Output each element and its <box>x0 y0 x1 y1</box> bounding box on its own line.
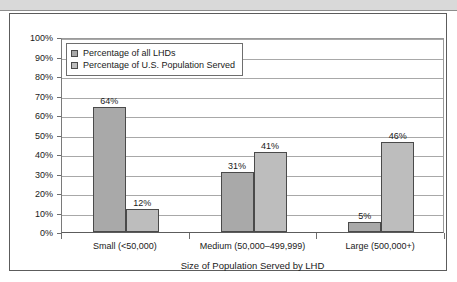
gridline <box>62 98 443 99</box>
legend-label: Percentage of U.S. Population Served <box>83 60 235 70</box>
chart-outer-frame: 0%10%20%30%40%50%60%70%80%90%100% 64%12%… <box>9 13 447 271</box>
y-axis-tick-label: 20% <box>17 189 53 199</box>
legend-item: Percentage of all LHDs <box>71 47 235 59</box>
y-axis-tick-label: 30% <box>17 170 53 180</box>
legend-label: Percentage of all LHDs <box>83 48 176 58</box>
bar <box>348 222 381 232</box>
y-axis-tick-label: 10% <box>17 209 53 219</box>
x-axis-category-label: Medium (50,000–499,999) <box>200 241 306 251</box>
gridline <box>62 78 443 79</box>
legend-swatch-icon <box>71 50 78 57</box>
bar-value-label: 46% <box>389 131 407 141</box>
bar <box>93 107 126 232</box>
bar <box>254 152 287 232</box>
x-axis-tick-mark <box>316 233 317 239</box>
y-axis-tick-label: 60% <box>17 111 53 121</box>
bar-value-label: 31% <box>228 161 246 171</box>
x-axis-tick-mark <box>444 233 445 239</box>
y-axis-tick-label: 90% <box>17 53 53 63</box>
y-axis-tick-label: 70% <box>17 92 53 102</box>
gridline <box>62 39 443 40</box>
chart-legend: Percentage of all LHDs Percentage of U.S… <box>66 43 243 76</box>
bar <box>381 142 414 232</box>
bar-value-label: 41% <box>261 141 279 151</box>
x-axis-tick-mark <box>189 233 190 239</box>
bar-value-label: 64% <box>100 96 118 106</box>
legend-swatch-icon <box>71 62 78 69</box>
bar-value-label: 12% <box>133 198 151 208</box>
x-axis-title: Size of Population Served by LHD <box>61 260 444 271</box>
x-axis-category-label: Small (<50,000) <box>93 241 157 251</box>
chart-figure: 0%10%20%30%40%50%60%70%80%90%100% 64%12%… <box>0 0 457 282</box>
y-axis-tick-label: 50% <box>17 131 53 141</box>
legend-item: Percentage of U.S. Population Served <box>71 59 235 71</box>
x-axis-tick-mark <box>61 233 62 239</box>
cut-off-caption-strip <box>0 0 457 11</box>
y-axis-tick-label: 100% <box>17 33 53 43</box>
bar-value-label: 5% <box>358 211 371 221</box>
bar <box>126 209 159 232</box>
y-axis-tick-label: 0% <box>17 228 53 238</box>
y-axis-tick-label: 80% <box>17 72 53 82</box>
x-axis-category-label: Large (500,000+) <box>346 241 415 251</box>
y-axis-tick-label: 40% <box>17 150 53 160</box>
bar <box>221 172 254 232</box>
